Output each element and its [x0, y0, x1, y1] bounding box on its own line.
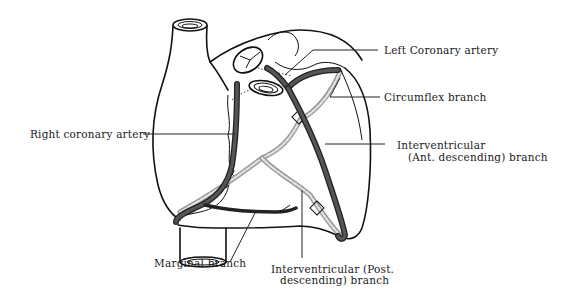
- leader-left-coronary-diag: [285, 50, 313, 75]
- coronary-artery-diagram: Left Coronary artery Circumflex branch R…: [0, 0, 563, 295]
- label-marginal-branch: Marginal branch: [154, 257, 246, 269]
- label-right-coronary-artery: Right coronary artery: [30, 128, 150, 140]
- label-interventricular-ant-line2: (Ant. descending) branch: [408, 151, 548, 163]
- left-atrium: [268, 32, 345, 69]
- label-circumflex-branch: Circumflex branch: [384, 91, 487, 103]
- label-interventricular-post-line2: descending) branch: [280, 274, 389, 286]
- right-atrium: [186, 30, 362, 215]
- label-left-coronary-artery: Left Coronary artery: [384, 44, 498, 56]
- leader-marginal: [230, 211, 256, 262]
- label-interventricular-ant-line1: Interventricular: [397, 139, 485, 151]
